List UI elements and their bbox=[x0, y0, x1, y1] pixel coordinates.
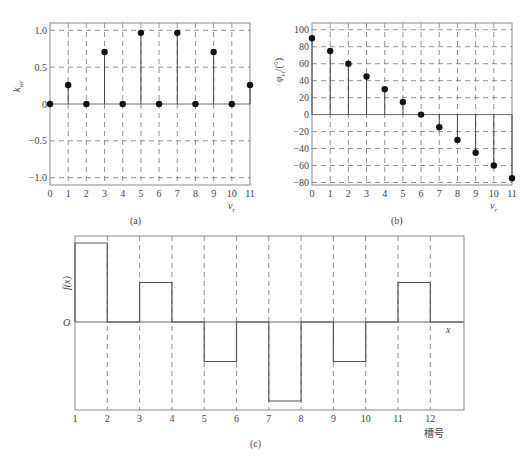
chart-a-ylabel: kwr bbox=[11, 80, 25, 92]
chart-b-caption: (b) bbox=[391, 215, 403, 227]
chart-c-xlabel: x bbox=[445, 324, 451, 335]
chart-c-xlabel2: 槽号 bbox=[424, 427, 444, 439]
figure-labels: kwr νr (a) φvl/(°) νr (b) f(x) O x 槽号 (c… bbox=[0, 0, 530, 464]
chart-a-caption: (a) bbox=[130, 215, 141, 227]
chart-c-ylabel: f(x) bbox=[61, 275, 73, 290]
svg-text:f(x): f(x) bbox=[61, 275, 73, 290]
chart-c-caption: (c) bbox=[250, 438, 261, 450]
svg-text:φvl/(°): φvl/(°) bbox=[273, 58, 287, 82]
chart-b-ylabel: φvl/(°) bbox=[273, 58, 287, 82]
chart-c-origin: O bbox=[63, 317, 70, 328]
svg-text:kwr: kwr bbox=[11, 80, 25, 92]
chart-a-xlabel: νr bbox=[228, 200, 235, 214]
chart-b-xlabel: νr bbox=[490, 200, 497, 214]
